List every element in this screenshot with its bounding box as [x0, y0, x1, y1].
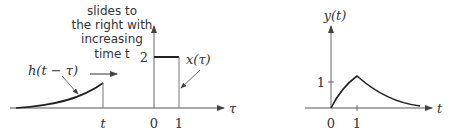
- tick-0: 0: [150, 116, 158, 131]
- x-pointer-icon: [181, 70, 200, 88]
- right-level-1: 1: [317, 75, 325, 90]
- h-curve: [16, 83, 103, 108]
- tick-1: 1: [175, 116, 183, 131]
- annotation-line-4: time t: [94, 47, 130, 61]
- left-plot: slides to the right with increasing time…: [10, 4, 237, 131]
- tick-t: t: [100, 116, 106, 131]
- annotation-line-2: the right with: [72, 18, 153, 32]
- tau-label: τ: [229, 101, 237, 116]
- right-tick-0: 0: [327, 116, 335, 131]
- annotation-line-3: increasing: [81, 32, 143, 46]
- right-plot: y(t) t 0 1 1: [305, 8, 443, 131]
- x-label: x(τ): [186, 52, 211, 67]
- y-axis-label: y(t): [323, 8, 347, 23]
- h-label: h(t − τ): [28, 63, 78, 78]
- convolution-diagram: slides to the right with increasing time…: [0, 0, 449, 133]
- h-pointer-icon: [62, 76, 78, 94]
- y-curve: [331, 76, 420, 108]
- level-2: 2: [140, 50, 148, 65]
- t-axis-label: t: [437, 101, 443, 116]
- annotation-line-1: slides to: [87, 4, 137, 18]
- right-tick-1: 1: [353, 116, 361, 131]
